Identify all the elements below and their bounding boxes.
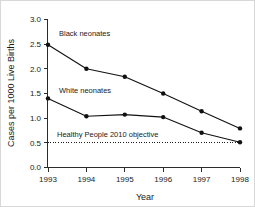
annotation-black-neonates: Black neonates bbox=[59, 29, 111, 38]
x-tick-labels: 1993 1994 1995 1996 1997 1998 bbox=[39, 175, 249, 184]
y-tick-label-5: 2.5 bbox=[30, 40, 42, 49]
y-tick-label-1: 0.5 bbox=[30, 139, 42, 148]
series-black-neonates-point-1997 bbox=[199, 109, 203, 113]
x-tick-label-0: 1993 bbox=[39, 175, 57, 184]
x-tick-marks bbox=[48, 168, 240, 172]
series-white-neonates-point-1998 bbox=[238, 140, 242, 144]
chart-figure: 0.0 0.5 1.0 1.5 2.0 2.5 3.0 1993 1994 19… bbox=[0, 0, 255, 207]
y-tick-label-0: 0.0 bbox=[30, 163, 42, 172]
series-white-neonates-point-1996 bbox=[161, 115, 165, 119]
series-black-neonates-point-1996 bbox=[161, 91, 165, 95]
series-white-neonates-point-1993 bbox=[46, 96, 50, 100]
series-black-neonates-point-1998 bbox=[238, 126, 242, 130]
y-axis-title: Cases per 1000 Live Births bbox=[6, 38, 16, 147]
x-tick-label-2: 1995 bbox=[116, 175, 134, 184]
x-tick-label-1: 1994 bbox=[78, 175, 96, 184]
y-tick-labels: 0.0 0.5 1.0 1.5 2.0 2.5 3.0 bbox=[30, 15, 42, 172]
series-white-neonates-point-1997 bbox=[199, 131, 203, 135]
series-black-neonates-point-1993 bbox=[46, 43, 50, 47]
series-black-neonates-point-1994 bbox=[84, 67, 88, 71]
x-axis-title: Year bbox=[136, 192, 154, 202]
y-tick-label-2: 1.0 bbox=[30, 114, 42, 123]
y-tick-label-3: 1.5 bbox=[30, 89, 42, 98]
y-tick-marks bbox=[44, 20, 48, 168]
x-tick-label-4: 1997 bbox=[193, 175, 211, 184]
x-tick-label-3: 1996 bbox=[154, 175, 172, 184]
y-tick-label-4: 2.0 bbox=[30, 65, 42, 74]
annotation-white-neonates: White neonates bbox=[59, 86, 111, 95]
series-white-neonates-point-1994 bbox=[84, 114, 88, 118]
x-tick-label-5: 1998 bbox=[231, 175, 249, 184]
line-chart: 0.0 0.5 1.0 1.5 2.0 2.5 3.0 1993 1994 19… bbox=[1, 1, 255, 207]
annotation-reference-line: Healthy People 2010 objective bbox=[57, 130, 158, 139]
y-tick-label-6: 3.0 bbox=[30, 15, 42, 24]
series-white-neonates-point-1995 bbox=[123, 112, 127, 116]
series-black-neonates-point-1995 bbox=[123, 75, 127, 79]
